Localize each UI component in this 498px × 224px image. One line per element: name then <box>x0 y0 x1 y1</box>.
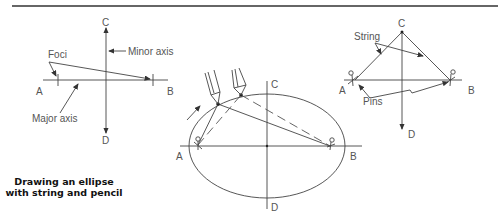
label-c: C <box>102 17 109 28</box>
figure-ellipse-drawing: C A B D <box>176 68 362 213</box>
label-foci: Foci <box>48 49 67 60</box>
figure-axes-foci: C A B D Foci Minor axis Major axis <box>32 17 174 146</box>
figure-pins-string: C A B D String Pins <box>339 18 475 140</box>
label-d: D <box>408 129 415 140</box>
label-major-axis: Major axis <box>32 113 78 124</box>
label-d: D <box>102 135 109 146</box>
label-a: A <box>339 85 346 96</box>
direction-arrow-icon <box>187 106 200 120</box>
label-a: A <box>176 151 183 162</box>
label-b: B <box>167 86 174 97</box>
pencil-icon <box>232 68 246 95</box>
label-minor-axis: Minor axis <box>128 46 174 57</box>
label-c: C <box>398 18 405 29</box>
label-b: B <box>468 85 475 96</box>
label-pins: Pins <box>363 96 382 107</box>
label-b: B <box>350 151 357 162</box>
pencil-icon <box>205 70 220 104</box>
label-d: D <box>271 202 278 213</box>
ellipse-diagram: C A B D Foci Minor axis Major axis Drawi… <box>0 0 498 224</box>
pin-icon <box>327 138 335 150</box>
title-line-2: with string and pencil <box>5 187 122 198</box>
label-string: String <box>354 31 380 42</box>
title-line-1: Drawing an ellipse <box>14 176 113 187</box>
label-a: A <box>36 86 43 97</box>
label-c: C <box>271 79 278 90</box>
